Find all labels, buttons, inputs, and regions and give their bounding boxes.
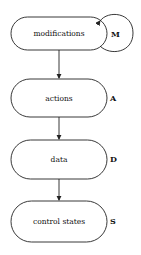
node-modifications: modifications M [11,17,120,50]
node-label: data [51,155,68,164]
node-actions: actions A [11,79,117,117]
node-label: modifications [33,29,84,38]
flow-diagram: modifications M actions A data D control… [0,0,141,255]
node-label: actions [45,94,72,103]
node-tag: D [110,154,117,164]
node-label: control states [33,217,85,226]
node-control-states: control states S [11,201,116,242]
node-data: data D [11,140,117,179]
node-tag: A [109,93,117,103]
node-tag: S [110,216,116,226]
node-tag: M [111,29,120,39]
